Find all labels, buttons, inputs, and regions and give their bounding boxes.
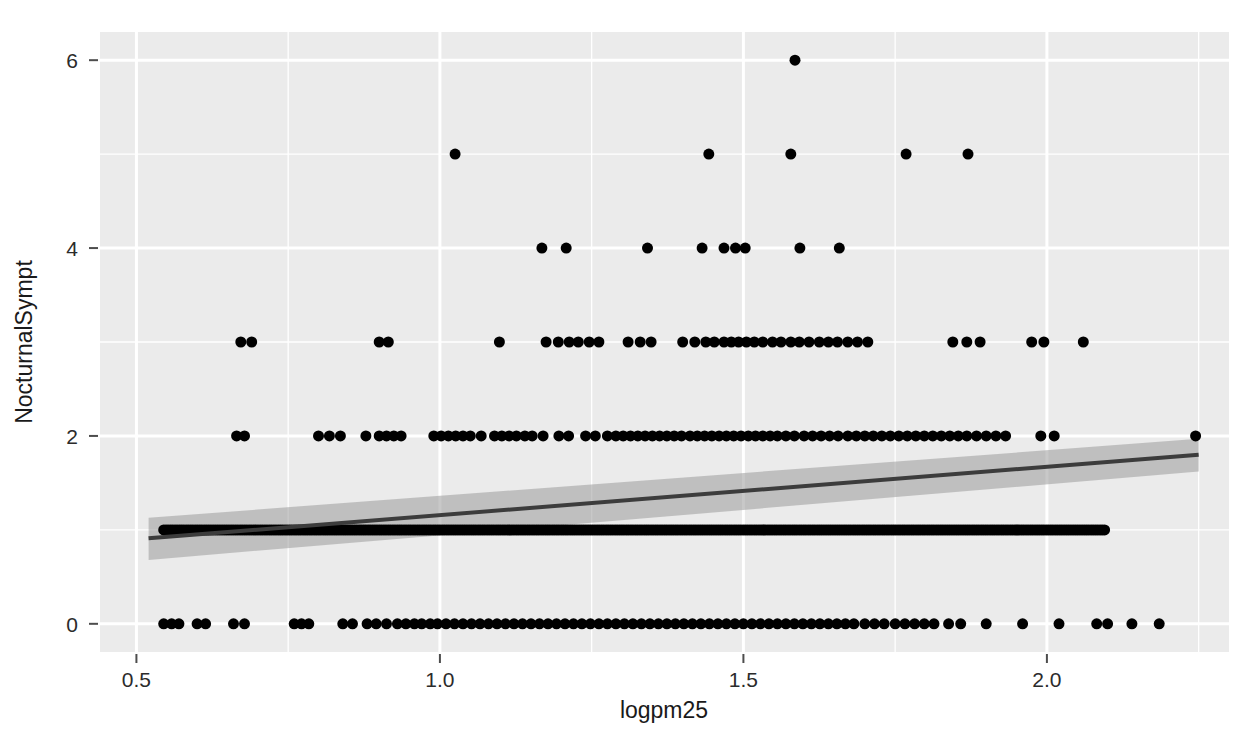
data-point (642, 243, 653, 254)
data-point (730, 243, 741, 254)
data-point (1099, 524, 1110, 535)
data-point (573, 337, 584, 348)
data-point (590, 430, 601, 441)
data-point (1000, 430, 1011, 441)
data-point (527, 430, 538, 441)
data-point (371, 618, 382, 629)
y-axis-tick-label: 2 (66, 425, 78, 448)
x-axis-tick-label: 1.5 (729, 668, 758, 691)
x-axis-tick-label: 2.0 (1032, 668, 1061, 691)
data-point (901, 149, 912, 160)
data-point (740, 243, 751, 254)
data-point (890, 618, 901, 629)
data-point (832, 337, 843, 348)
data-point (852, 337, 863, 348)
data-point (200, 618, 211, 629)
chart-container: 0.51.01.52.00246 logpm25 NocturnalSympt (0, 0, 1253, 746)
y-axis-tick-label: 0 (66, 613, 78, 636)
data-point (1054, 618, 1065, 629)
y-axis-tick-label: 4 (66, 237, 78, 260)
data-point (776, 337, 787, 348)
data-point (842, 337, 853, 348)
data-point (337, 618, 348, 629)
data-point (239, 618, 250, 629)
y-axis-title: NocturnalSympt (11, 260, 37, 424)
data-point (563, 430, 574, 441)
data-point (396, 430, 407, 441)
data-point (1026, 337, 1037, 348)
data-point (1102, 618, 1113, 629)
x-axis-tick-label: 0.5 (122, 668, 151, 691)
data-point (943, 618, 954, 629)
data-point (228, 618, 239, 629)
data-point (580, 430, 591, 441)
data-point (303, 618, 314, 629)
data-point (848, 618, 859, 629)
data-point (553, 337, 564, 348)
data-point (313, 430, 324, 441)
data-point (494, 337, 505, 348)
data-point (719, 243, 730, 254)
data-point (538, 430, 549, 441)
data-point (697, 243, 708, 254)
data-point (862, 337, 873, 348)
data-point (794, 243, 805, 254)
data-point (869, 618, 880, 629)
data-point (689, 337, 700, 348)
data-point (981, 618, 992, 629)
data-point (360, 430, 371, 441)
data-point (879, 618, 890, 629)
data-point (635, 337, 646, 348)
data-point (1035, 430, 1046, 441)
data-point (335, 430, 346, 441)
data-point (347, 618, 358, 629)
data-point (961, 430, 972, 441)
data-point (623, 337, 634, 348)
data-point (947, 337, 958, 348)
data-point (1126, 618, 1137, 629)
data-point (465, 430, 476, 441)
data-point (593, 337, 604, 348)
data-point (677, 337, 688, 348)
data-point (239, 430, 250, 441)
data-point (173, 618, 184, 629)
data-point (646, 337, 657, 348)
data-point (450, 149, 461, 160)
data-point (324, 430, 335, 441)
data-point (899, 618, 910, 629)
data-point (971, 430, 982, 441)
data-point (1038, 337, 1049, 348)
data-point (1091, 618, 1102, 629)
data-point (757, 337, 768, 348)
data-point (963, 149, 974, 160)
x-axis-title: logpm25 (620, 697, 708, 723)
x-axis-tick-label: 1.0 (425, 668, 454, 691)
data-point (794, 337, 805, 348)
data-point (1190, 430, 1201, 441)
data-point (909, 618, 920, 629)
data-point (246, 337, 257, 348)
data-point (709, 337, 720, 348)
data-point (703, 149, 714, 160)
data-point (584, 337, 595, 348)
data-point (561, 243, 572, 254)
data-point (1078, 337, 1089, 348)
data-point (541, 337, 552, 348)
scatter-plot: 0.51.01.52.00246 logpm25 NocturnalSympt (0, 0, 1253, 746)
data-point (381, 618, 392, 629)
data-point (1049, 430, 1060, 441)
data-point (929, 618, 940, 629)
data-point (235, 337, 246, 348)
data-point (1017, 618, 1028, 629)
data-point (383, 337, 394, 348)
data-point (919, 618, 930, 629)
data-point (536, 243, 547, 254)
data-point (476, 430, 487, 441)
data-point (975, 337, 986, 348)
y-axis-tick-label: 6 (66, 49, 78, 72)
data-point (834, 243, 845, 254)
data-point (804, 337, 815, 348)
data-point (961, 337, 972, 348)
data-point (859, 618, 870, 629)
data-point (955, 618, 966, 629)
